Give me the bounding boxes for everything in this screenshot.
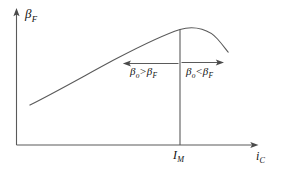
region-right-label: βo<βF — [186, 66, 213, 80]
figure-canvas — [0, 0, 281, 169]
region-left-operator: > — [139, 65, 146, 77]
region-right-rhs-subscript: F — [209, 71, 214, 80]
y-axis-label-subscript: F — [32, 14, 37, 24]
y-axis — [13, 8, 19, 145]
y-axis-label: βF — [25, 7, 37, 23]
region-left-label: βo>βF — [130, 66, 157, 80]
x-axis-label: iC — [256, 150, 265, 166]
beta-f-vs-ic-figure: βF iC IM βo>βF βo<βF — [0, 0, 281, 169]
im-tick-label: IM — [173, 149, 184, 165]
x-axis — [17, 142, 259, 148]
x-axis-label-subscript: C — [260, 156, 265, 165]
im-tick-subscript: M — [177, 155, 184, 164]
region-right-operator: < — [195, 65, 202, 77]
region-left-rhs-subscript: F — [153, 71, 158, 80]
y-axis-label-symbol: β — [25, 6, 32, 21]
